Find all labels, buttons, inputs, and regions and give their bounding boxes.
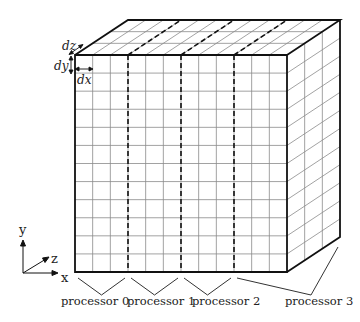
processor-1-label: processor 1 — [127, 294, 195, 308]
cube-outline — [75, 20, 340, 272]
top-face-grid — [93, 20, 323, 55]
z-axis-label: z — [51, 251, 58, 266]
dz-label: dz — [62, 39, 77, 53]
y-axis-label: y — [18, 222, 27, 237]
processor-3-label: processor 3 — [285, 294, 353, 308]
dx-label: dx — [77, 73, 92, 87]
side-face-grid — [287, 32, 340, 261]
processor-2-label: processor 2 — [192, 294, 260, 308]
domain-decomposition-diagram: dz dy dx y x z processor 0 processor 1 p… — [0, 0, 360, 322]
x-axis-label: x — [61, 270, 69, 285]
processor-dividers — [128, 20, 287, 272]
processor-0-label: processor 0 — [61, 294, 129, 308]
dy-label: dy — [54, 59, 69, 73]
